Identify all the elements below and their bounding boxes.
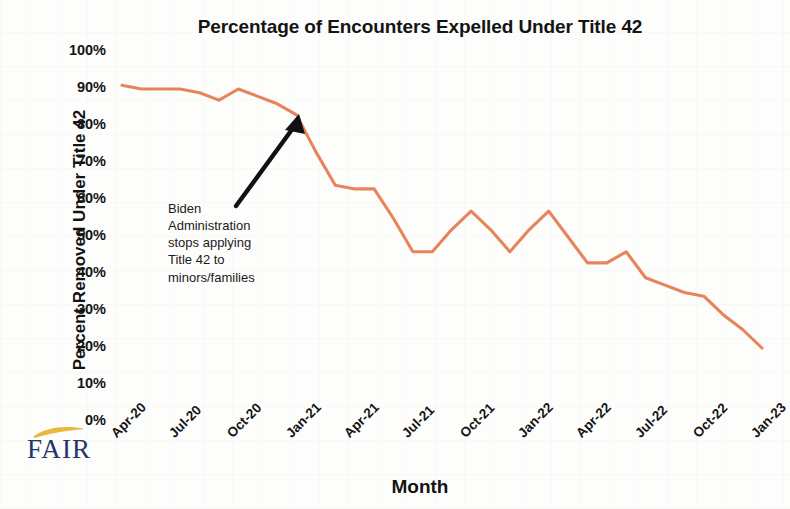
chart-figure: Percentage of Encounters Expelled Under … <box>0 0 790 509</box>
y-tick-label: 100% <box>48 42 106 58</box>
y-tick-label: 50% <box>48 227 106 243</box>
logo-wordmark: FAIR <box>27 436 91 463</box>
y-tick-label: 30% <box>48 301 106 317</box>
chart-title: Percentage of Encounters Expelled Under … <box>120 16 720 38</box>
y-tick-label: 70% <box>48 153 106 169</box>
x-tick-label: Jan-22 <box>515 400 556 441</box>
y-tick-label: 80% <box>48 116 106 132</box>
annotation-line: Administration <box>168 217 298 234</box>
y-tick-label: 20% <box>48 338 106 354</box>
x-tick-label: Oct-22 <box>690 400 730 440</box>
x-tick-label: Apr-21 <box>341 400 382 441</box>
x-tick-label: Jul-22 <box>632 402 670 440</box>
x-tick-label: Jan-21 <box>283 400 324 441</box>
annotation-label: BidenAdministrationstops applyingTitle 4… <box>168 200 298 286</box>
annotation-arrow-icon <box>236 114 305 206</box>
fair-logo: FAIR <box>27 424 119 466</box>
x-tick-label: Oct-20 <box>224 400 264 440</box>
y-tick-label: 40% <box>48 264 106 280</box>
annotation-line: Biden <box>168 200 298 217</box>
x-tick-label: Jan-23 <box>748 400 789 441</box>
x-tick-label: Jul-21 <box>399 402 437 440</box>
x-tick-label: Apr-22 <box>573 400 614 441</box>
x-tick-label: Jul-20 <box>166 402 204 440</box>
annotation-line: Title 42 to <box>168 251 298 268</box>
y-tick-label: 90% <box>48 79 106 95</box>
x-tick-label: Oct-21 <box>457 400 497 440</box>
y-tick-label: 10% <box>48 375 106 391</box>
x-axis-title: Month <box>300 476 540 498</box>
y-tick-label: 60% <box>48 190 106 206</box>
annotation-line: minors/families <box>168 269 298 286</box>
annotation-line: stops applying <box>168 234 298 251</box>
